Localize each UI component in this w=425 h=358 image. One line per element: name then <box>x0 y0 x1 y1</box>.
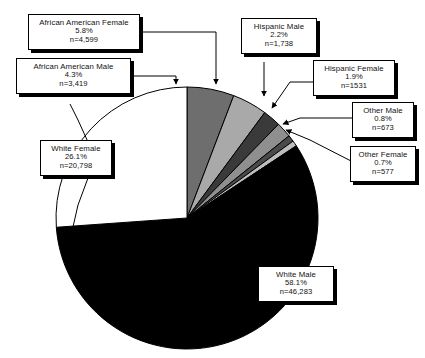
callout-african-american-female[interactable]: African American Female 5.8% n=4,599 <box>28 14 140 50</box>
leader-line-other-female <box>286 130 353 162</box>
callout-white-male[interactable]: White Male 58.1% n=46,283 <box>258 266 334 302</box>
callout-count: n=46,283 <box>263 288 329 297</box>
callout-count: n=1531 <box>318 82 390 91</box>
callout-hispanic-male[interactable]: Hispanic Male 2.2% n=1,738 <box>241 18 317 54</box>
callout-african-american-male[interactable]: African American Male 4.3% n=3,419 <box>16 58 131 94</box>
callout-count: n=673 <box>357 124 409 133</box>
callout-count: n=1,738 <box>246 40 312 49</box>
callout-other-male[interactable]: Other Male 0.8% n=673 <box>352 102 414 138</box>
callout-count: n=4,599 <box>33 36 135 45</box>
leader-line-white-female <box>70 104 88 142</box>
callout-other-female[interactable]: Other Female 0.7% n=577 <box>350 146 416 182</box>
callout-hispanic-female[interactable]: Hispanic Female 1.9% n=1531 <box>313 60 395 96</box>
callout-count: n=3,419 <box>21 80 126 89</box>
callout-count: n=20,798 <box>45 162 107 171</box>
callout-white-female[interactable]: White Female 26.1% n=20,798 <box>40 140 112 176</box>
chart-canvas: African American Female 5.8% n=4,599 Afr… <box>0 0 425 358</box>
leader-line-african-american-male <box>133 76 176 84</box>
leader-line-white-female-lower <box>70 178 88 240</box>
leader-line-hispanic-female <box>272 82 314 108</box>
leader-line-other-male <box>283 118 353 124</box>
callout-count: n=577 <box>355 168 411 177</box>
